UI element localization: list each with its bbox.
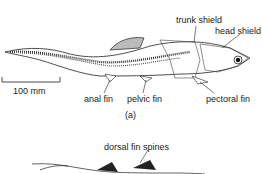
label-dorsal-fin-spines: dorsal fin spines xyxy=(104,142,169,152)
label-head-shield: head shield xyxy=(215,26,261,36)
label-trunk-shield: trunk shield xyxy=(176,15,222,25)
label-pelvic-fin: pelvic fin xyxy=(127,94,162,104)
label-pectoral-fin: pectoral fin xyxy=(206,94,250,104)
label-anal-fin: anal fin xyxy=(84,94,113,104)
panel-a-caption: (a) xyxy=(125,110,136,120)
scale-bar-label: 100 mm xyxy=(13,86,46,96)
